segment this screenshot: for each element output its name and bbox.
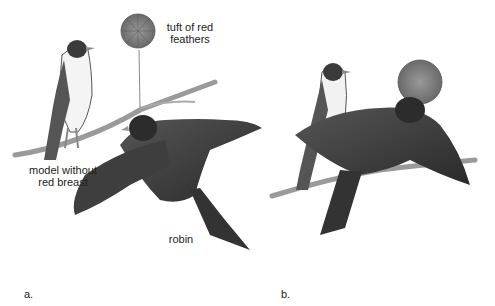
- model-label-line2: red breast: [24, 176, 102, 188]
- label-model-without-red-breast: model without red breast: [24, 164, 102, 188]
- panel-label-b: b.: [281, 288, 290, 300]
- panel-a-illustration: [15, 14, 262, 250]
- red-feather-tuft: [398, 60, 442, 104]
- panel-label-a: a.: [24, 288, 33, 300]
- tuft-label-line1: tuft of red: [155, 21, 225, 33]
- model-label-line1: model without: [24, 164, 102, 176]
- tuft-label-line2: feathers: [155, 33, 225, 45]
- string: [139, 50, 140, 108]
- label-tuft-of-red-feathers: tuft of red feathers: [155, 21, 225, 45]
- illustration: [0, 0, 495, 306]
- label-robin: robin: [165, 233, 197, 245]
- panel-b-illustration: [272, 60, 475, 235]
